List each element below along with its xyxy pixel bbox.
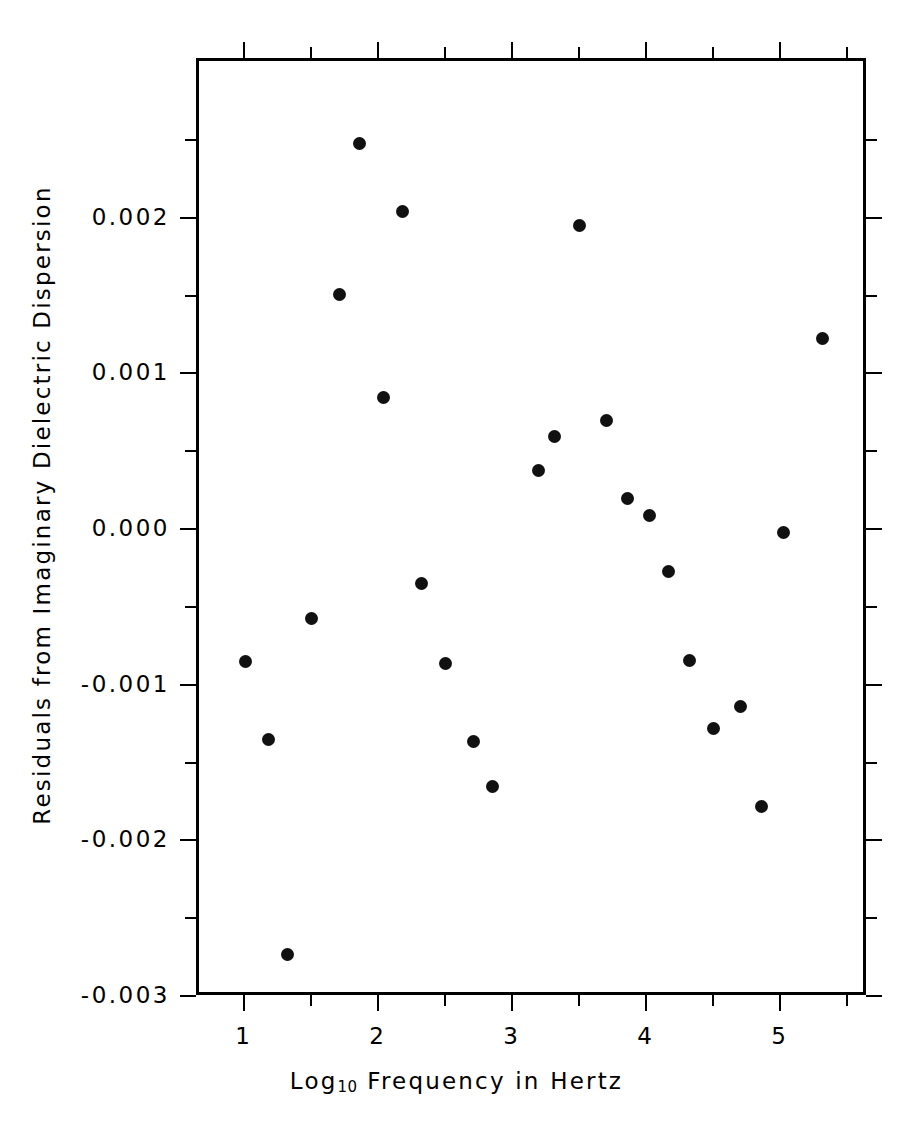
y-tick-label: 0.000 (70, 515, 170, 541)
scatter-plot-figure: Residuals from Imaginary Dielectric Disp… (0, 0, 913, 1147)
data-point (396, 205, 409, 218)
plot-area (196, 58, 866, 995)
data-point (281, 948, 294, 961)
y-tick-label: -0.002 (70, 826, 170, 852)
data-point (486, 780, 499, 793)
x-tick-label: 4 (637, 1023, 653, 1049)
data-point (734, 700, 747, 713)
x-tick-minor-top (444, 47, 446, 58)
data-point (683, 654, 696, 667)
y-tick-minor-right (866, 606, 877, 608)
data-point (755, 800, 768, 813)
x-tick-major (779, 995, 781, 1011)
x-tick-minor (578, 995, 580, 1006)
x-tick-minor (712, 995, 714, 1006)
y-tick-label: 0.002 (70, 204, 170, 230)
y-tick-label: 0.001 (70, 359, 170, 385)
y-tick-major-right (866, 684, 882, 686)
x-axis-title-rest: Frequency in Hertz (358, 1068, 624, 1094)
y-tick-minor (185, 762, 196, 764)
y-tick-major (180, 217, 196, 219)
x-tick-major-top (243, 42, 245, 58)
data-point (816, 332, 829, 345)
y-tick-major (180, 684, 196, 686)
data-point (377, 391, 390, 404)
y-tick-major (180, 839, 196, 841)
y-tick-minor (185, 606, 196, 608)
x-tick-minor (310, 995, 312, 1006)
y-tick-major-right (866, 217, 882, 219)
x-tick-major (377, 995, 379, 1011)
data-point (621, 492, 634, 505)
x-tick-major (645, 995, 647, 1011)
y-tick-major (180, 528, 196, 530)
data-point (548, 430, 561, 443)
x-tick-minor (444, 995, 446, 1006)
data-point (353, 137, 366, 150)
x-tick-major-top (779, 42, 781, 58)
y-tick-minor-right (866, 917, 877, 919)
data-point (239, 655, 252, 668)
x-tick-major-top (645, 42, 647, 58)
y-tick-label: -0.003 (70, 982, 170, 1008)
data-point (707, 722, 720, 735)
data-point (415, 577, 428, 590)
x-tick-major-top (377, 42, 379, 58)
y-tick-minor (185, 139, 196, 141)
data-point (439, 657, 452, 670)
x-axis-title-subscript: 10 (338, 1078, 358, 1096)
x-tick-label: 1 (235, 1023, 251, 1049)
data-point (467, 735, 480, 748)
x-tick-minor-top (846, 47, 848, 58)
y-tick-minor-right (866, 762, 877, 764)
y-tick-major-right (866, 528, 882, 530)
data-point (662, 565, 675, 578)
y-tick-minor-right (866, 450, 877, 452)
data-point (573, 219, 586, 232)
y-tick-major (180, 995, 196, 997)
y-tick-major (180, 372, 196, 374)
data-point (262, 733, 275, 746)
x-tick-minor-top (310, 47, 312, 58)
x-tick-minor (846, 995, 848, 1006)
x-tick-minor-top (712, 47, 714, 58)
x-axis-title-base: Log (290, 1068, 338, 1094)
x-tick-minor-top (578, 47, 580, 58)
data-point (305, 612, 318, 625)
y-axis-title: Residuals from Imaginary Dielectric Disp… (29, 185, 55, 824)
data-point (333, 288, 346, 301)
x-tick-major (243, 995, 245, 1011)
y-tick-minor (185, 917, 196, 919)
data-point (643, 509, 656, 522)
y-tick-major-right (866, 995, 882, 997)
x-axis-title: Log10 Frequency in Hertz (0, 1068, 913, 1096)
y-axis-title-container: Residuals from Imaginary Dielectric Disp… (22, 0, 62, 1010)
y-tick-minor (185, 450, 196, 452)
x-tick-label: 2 (369, 1023, 385, 1049)
y-tick-minor (185, 295, 196, 297)
y-tick-minor-right (866, 139, 877, 141)
x-tick-label: 3 (503, 1023, 519, 1049)
x-tick-label: 5 (771, 1023, 787, 1049)
y-tick-minor-right (866, 295, 877, 297)
y-tick-major-right (866, 839, 882, 841)
data-point (777, 526, 790, 539)
y-tick-major-right (866, 372, 882, 374)
y-tick-label: -0.001 (70, 671, 170, 697)
x-tick-major-top (511, 42, 513, 58)
data-point (600, 414, 613, 427)
data-point (532, 464, 545, 477)
x-tick-major (511, 995, 513, 1011)
